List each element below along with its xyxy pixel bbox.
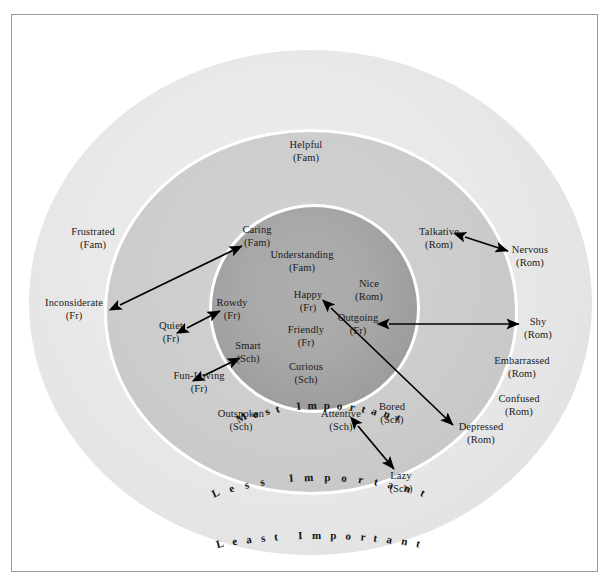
attribute-node-inconsiderate: Inconsiderate(Fr) xyxy=(45,297,103,322)
attribute-category: (Fam) xyxy=(242,236,271,249)
attribute-category: (Rom) xyxy=(524,328,552,341)
attribute-category: (Rom) xyxy=(459,433,504,446)
figure-canvas: Helpful(Fam)Caring(Fam)Understanding(Fam… xyxy=(0,0,611,582)
attribute-name: Curious xyxy=(289,361,323,372)
attribute-node-embarrassed: Embarrassed(Rom) xyxy=(494,355,549,380)
attribute-node-depressed: Depressed(Rom) xyxy=(459,421,504,446)
attribute-node-caring: Caring(Fam) xyxy=(242,224,271,249)
zone-label-most-important: Most Important xyxy=(280,399,356,411)
attribute-node-funloving: Fun-Loving(Fr) xyxy=(173,370,224,395)
zone-label-less-important: Less Important xyxy=(282,471,354,483)
attribute-node-outgoing: Outgoing(Fr) xyxy=(338,312,378,337)
attribute-name: Friendly xyxy=(288,324,324,335)
attribute-category: (Rom) xyxy=(512,256,548,269)
attribute-category: (Fr) xyxy=(173,382,224,395)
attribute-name: Outgoing xyxy=(338,312,378,323)
attribute-name: Understanding xyxy=(270,249,333,260)
figure-frame: Helpful(Fam)Caring(Fam)Understanding(Fam… xyxy=(11,14,598,572)
attribute-node-nice: Nice(Rom) xyxy=(355,278,383,303)
attribute-category: (Fr) xyxy=(288,336,324,349)
attribute-category: (Fr) xyxy=(217,309,248,322)
attribute-category: (Fr) xyxy=(45,309,103,322)
attribute-name: Embarrassed xyxy=(494,355,549,366)
attribute-name: Inconsiderate xyxy=(45,297,103,308)
attribute-name: Helpful xyxy=(290,139,323,150)
attribute-category: (Rom) xyxy=(498,405,539,418)
attribute-category: (Rom) xyxy=(494,367,549,380)
attribute-node-frustrated: Frustrated(Fam) xyxy=(71,226,115,251)
attribute-category: (Fr) xyxy=(294,301,323,314)
attribute-node-rowdy: Rowdy(Fr) xyxy=(217,297,248,322)
attribute-name: Smart xyxy=(235,340,261,351)
attribute-category: (Sch) xyxy=(321,420,361,433)
attribute-name: Rowdy xyxy=(217,297,248,308)
attribute-node-happy: Happy(Fr) xyxy=(294,289,323,314)
attribute-category: (Rom) xyxy=(419,238,459,251)
zone-label-least-important: Least Important xyxy=(279,529,356,541)
attribute-name: Nervous xyxy=(512,244,548,255)
attribute-name: Caring xyxy=(242,224,271,235)
attribute-name: Nice xyxy=(359,278,379,289)
attribute-node-understanding: Understanding(Fam) xyxy=(270,249,333,274)
attribute-node-confused: Confused(Rom) xyxy=(498,393,539,418)
attribute-name: Frustrated xyxy=(71,226,115,237)
attribute-category: (Fr) xyxy=(338,324,378,337)
attribute-name: Depressed xyxy=(459,421,504,432)
attribute-category: (Sch) xyxy=(289,373,323,386)
attribute-node-shy: Shy(Rom) xyxy=(524,316,552,341)
attribute-name: Confused xyxy=(498,393,539,404)
attribute-name: Talkative xyxy=(419,226,459,237)
attribute-node-curious: Curious(Sch) xyxy=(289,361,323,386)
attribute-category: (Fr) xyxy=(159,332,183,345)
attribute-name: Happy xyxy=(294,289,323,300)
attribute-name: Shy xyxy=(530,316,547,327)
attribute-category: (Fam) xyxy=(290,151,323,164)
attribute-node-nervous: Nervous(Rom) xyxy=(512,244,548,269)
attribute-category: (Sch) xyxy=(235,352,261,365)
attribute-node-quiet: Quiet(Fr) xyxy=(159,320,183,345)
attribute-node-helpful: Helpful(Fam) xyxy=(290,139,323,164)
attribute-name: Fun-Loving xyxy=(173,370,224,381)
attribute-node-smart: Smart(Sch) xyxy=(235,340,261,365)
attribute-node-friendly: Friendly(Fr) xyxy=(288,324,324,349)
attribute-node-talkative: Talkative(Rom) xyxy=(419,226,459,251)
attribute-category: (Fam) xyxy=(71,238,115,251)
attribute-name: Quiet xyxy=(159,320,183,331)
attribute-category: (Rom) xyxy=(355,290,383,303)
attribute-category: (Fam) xyxy=(270,261,333,274)
